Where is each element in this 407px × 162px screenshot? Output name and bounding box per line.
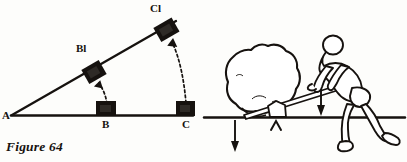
figure-65: R A F Figure 65	[200, 0, 407, 162]
fulcrum-stone	[268, 101, 286, 117]
fulcrum-caret-icon	[271, 121, 281, 130]
block-c-inner-highlight	[180, 105, 190, 112]
r-force-arrow-head	[231, 141, 239, 152]
point-label-a: A	[2, 109, 10, 121]
point-label-c: C	[182, 118, 190, 130]
man-front-foot	[338, 141, 353, 151]
point-label-b: B	[102, 118, 109, 130]
figure-65-drawing	[200, 0, 407, 162]
figure-64-drawing	[0, 0, 200, 162]
figure-page: A B C Bl Cl Figure 64	[0, 0, 407, 162]
arrow-c-to-c1-head	[167, 37, 179, 48]
block-b-inner-highlight	[100, 105, 111, 112]
figure-64-caption: Figure 64	[6, 139, 63, 155]
figure-64: A B C Bl Cl Figure 64	[0, 0, 200, 162]
point-label-b1: Bl	[76, 42, 86, 54]
arrow-c-to-c1	[173, 44, 186, 103]
point-label-c1: Cl	[150, 2, 161, 14]
arrow-b-to-b1-head	[94, 79, 105, 89]
man-rear-foot	[382, 133, 400, 145]
f-force-arrow-head	[317, 105, 325, 116]
